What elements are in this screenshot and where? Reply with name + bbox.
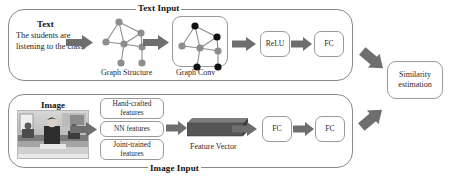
relu-box[interactable]: ReLU	[260, 31, 290, 57]
feature-option-joint-trained[interactable]: Joint-trained features	[100, 139, 164, 160]
image-section-label: Image	[41, 100, 65, 110]
graph-conv-figure	[174, 18, 227, 71]
image-input-title: Image Input	[148, 163, 201, 173]
similarity-estimation-box[interactable]: Similarity estimation	[387, 61, 443, 99]
arrow-text-to-graph	[66, 35, 94, 50]
arrow-text-to-similarity	[358, 46, 388, 74]
image-fc-box-2[interactable]: FC	[315, 116, 345, 142]
arrow-conv-to-relu	[232, 37, 257, 51]
text-section-label: Text	[37, 19, 54, 29]
arrow-relu-to-fc	[291, 37, 313, 51]
arrow-image-to-features	[70, 122, 98, 137]
feature-vector-caption: Feature Vector	[190, 142, 237, 151]
feature-option-nn[interactable]: NN features	[100, 121, 164, 137]
arrow-vector-to-fc	[232, 122, 258, 136]
text-fc-box[interactable]: FC	[314, 31, 344, 57]
text-input-title: Text Input	[136, 3, 181, 13]
graph-structure-caption: Graph Structure	[101, 68, 152, 77]
arrow-graph-to-conv	[143, 35, 170, 50]
arrow-fc-to-fc	[293, 122, 315, 136]
image-fc-box-1[interactable]: FC	[262, 116, 292, 142]
arrow-features-to-vector	[166, 121, 188, 135]
feature-option-hand-crafted[interactable]: Hand-crafted features	[100, 98, 164, 119]
arrow-image-to-similarity	[357, 104, 387, 132]
graph-conv-caption: Graph Conv	[176, 68, 215, 77]
diagram-canvas: Text Input Text The students are listeni…	[0, 0, 453, 181]
